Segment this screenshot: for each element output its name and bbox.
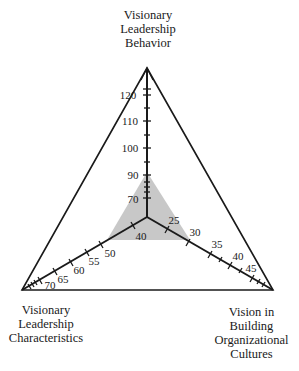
tick-label: 40	[233, 250, 245, 262]
tick-label: 70	[45, 279, 57, 291]
vertical-axis-tick-labels: 120 110 100 90 70	[120, 89, 139, 205]
right-axis-tick-labels: 25 30 35 40 45	[169, 214, 258, 274]
radar-chart: 120 110 100 90 70 40 50 55 60 65 70	[0, 0, 299, 371]
tick-label: 60	[74, 264, 86, 276]
tick-label: 40	[136, 230, 148, 242]
tick-label: 65	[58, 273, 70, 285]
tick-label: 55	[89, 255, 101, 267]
tick-label: 50	[105, 247, 117, 259]
tick-label: 25	[169, 214, 181, 226]
tick-label: 90	[128, 169, 140, 181]
tick-label: 110	[122, 115, 139, 127]
tick-label: 30	[190, 226, 202, 238]
tick-label: 35	[212, 238, 224, 250]
tick-label: 45	[246, 262, 258, 274]
tick-label: 100	[122, 142, 139, 154]
tick-label: 120	[120, 89, 137, 101]
tick-label: 70	[128, 193, 140, 205]
